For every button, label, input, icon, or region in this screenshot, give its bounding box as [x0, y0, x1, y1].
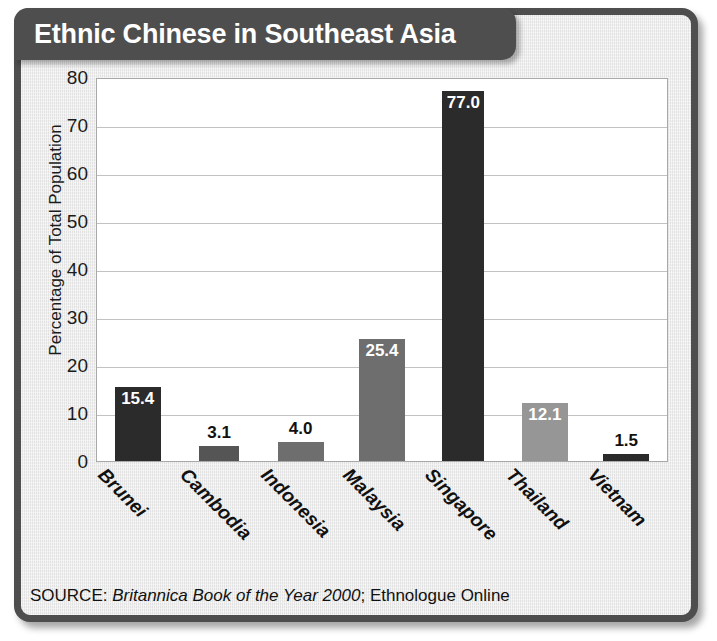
x-label-vietnam: Vietnam	[584, 464, 651, 531]
y-tick-label: 60	[67, 163, 88, 185]
x-axis-category-labels: BruneiCambodiaIndonesiaMalaysiaSingapore…	[96, 464, 668, 564]
bar-malaysia: 25.4	[359, 339, 405, 461]
source-suffix: ; Ethnologue Online	[360, 586, 509, 605]
bar-indonesia: 4.0	[278, 442, 324, 461]
bar-value-label: 1.5	[591, 431, 661, 451]
title-tab: Ethnic Chinese in Southeast Asia	[14, 8, 516, 60]
y-tick-label: 40	[67, 259, 88, 281]
bar-value-label: 77.0	[442, 93, 484, 113]
x-label-thailand: Thailand	[502, 464, 573, 535]
bar-brunei: 15.4	[115, 387, 161, 461]
y-axis-tick-labels: 01020304050607080	[42, 78, 88, 462]
y-tick-label: 20	[67, 355, 88, 377]
y-tick-label: 80	[67, 67, 88, 89]
bar-cambodia: 3.1	[199, 446, 239, 461]
source-divider	[14, 578, 684, 579]
bar-series: 15.43.14.025.477.012.11.5	[97, 79, 667, 461]
source-note: SOURCE: Britannica Book of the Year 2000…	[30, 586, 510, 606]
y-tick-label: 70	[67, 115, 88, 137]
bar-slot: 77.0	[423, 79, 504, 461]
x-label-singapore: Singapore	[420, 464, 501, 545]
x-label-brunei: Brunei	[93, 464, 151, 522]
bar-thailand: 12.1	[522, 403, 568, 461]
x-label-indonesia: Indonesia	[257, 464, 335, 542]
x-label-malaysia: Malaysia	[338, 464, 410, 536]
y-tick-label: 10	[67, 403, 88, 425]
bar-slot: 4.0	[260, 79, 341, 461]
bar-slot: 15.4	[97, 79, 178, 461]
bar-vietnam: 1.5	[603, 454, 649, 461]
bar-slot: 12.1	[504, 79, 585, 461]
bar-value-label: 25.4	[359, 341, 405, 361]
chart-area: Percentage of Total Population 010203040…	[14, 62, 684, 582]
page-title: Ethnic Chinese in Southeast Asia	[34, 19, 456, 50]
y-tick-label: 50	[67, 211, 88, 233]
y-tick-label: 0	[77, 451, 88, 473]
bar-value-label: 15.4	[115, 389, 161, 409]
bar-slot: 25.4	[341, 79, 422, 461]
plot-area: 15.43.14.025.477.012.11.5	[96, 78, 668, 462]
source-prefix: SOURCE:	[30, 586, 112, 605]
bar-value-label: 12.1	[522, 405, 568, 425]
bar-value-label: 4.0	[266, 419, 336, 439]
bar-slot: 1.5	[586, 79, 667, 461]
x-label-cambodia: Cambodia	[175, 464, 256, 545]
bar-slot: 3.1	[178, 79, 259, 461]
chart-figure: Ethnic Chinese in Southeast Asia Percent…	[0, 0, 717, 641]
bar-value-label: 3.1	[187, 423, 251, 443]
source-title: Britannica Book of the Year 2000	[112, 586, 360, 605]
y-tick-label: 30	[67, 307, 88, 329]
bar-singapore: 77.0	[442, 91, 484, 461]
